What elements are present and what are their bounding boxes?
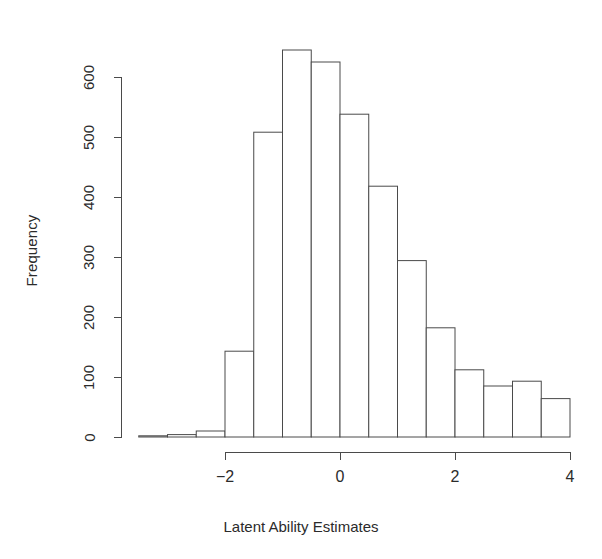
x-tick-label-0: 0 [320, 468, 360, 486]
y-tick-100 [114, 377, 122, 378]
histogram-bar [484, 386, 513, 437]
y-tick-label-0: 0 [72, 429, 106, 445]
histogram-bar [168, 435, 197, 437]
histogram-bar [369, 186, 398, 437]
histogram-bar [340, 114, 369, 437]
y-tick-label-600: 600 [72, 69, 106, 85]
histogram-bar [139, 436, 168, 437]
y-axis-label-text: Frequency [24, 214, 41, 286]
x-tick-label-2: 2 [435, 468, 475, 486]
y-axis-label: Frequency [12, 170, 52, 330]
histogram-bar [513, 381, 542, 437]
plot-title-cropped [0, 0, 602, 8]
y-tick-600 [114, 77, 122, 78]
y-tick-label-300: 300 [72, 249, 106, 265]
y-tick-500 [114, 137, 122, 138]
histogram-bar [311, 62, 340, 437]
x-tick-2 [455, 452, 456, 460]
x-tick-neg2 [225, 452, 226, 460]
y-tick-200 [114, 317, 122, 318]
histogram-bar [196, 431, 225, 437]
histogram-bar [426, 328, 455, 437]
y-tick-0 [114, 437, 122, 438]
y-tick-label-200: 200 [72, 309, 106, 325]
x-tick-label-neg2: −2 [205, 468, 245, 486]
x-tick-label-4: 4 [550, 468, 590, 486]
x-axis-label: Latent Ability Estimates [0, 518, 602, 535]
histogram-bar [398, 261, 427, 437]
histogram-bar [541, 399, 570, 437]
y-tick-label-500: 500 [72, 129, 106, 145]
y-tick-300 [114, 257, 122, 258]
histogram-plot: Frequency Latent Ability Estimates 600 5… [0, 0, 602, 559]
x-axis-line [225, 452, 570, 453]
histogram-bar [225, 351, 254, 437]
histogram-bar [283, 50, 312, 437]
y-tick-label-400: 400 [72, 189, 106, 205]
histogram-bar [455, 370, 484, 437]
x-tick-0 [340, 452, 341, 460]
y-tick-400 [114, 197, 122, 198]
x-tick-4 [570, 452, 571, 460]
histogram-bar [254, 132, 283, 437]
y-tick-label-100: 100 [72, 369, 106, 385]
